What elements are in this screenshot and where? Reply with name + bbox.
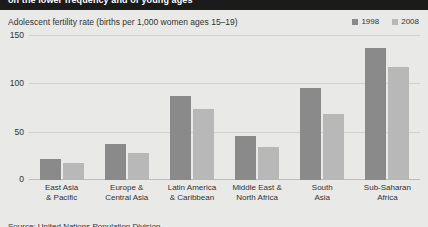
y-tick-label: 100: [10, 78, 24, 88]
source-note: Source: United Nations Population Divisi…: [8, 222, 163, 227]
bar-group: [225, 35, 290, 180]
bar-2008: [63, 163, 84, 180]
plot-area: 150 100 50 0: [29, 35, 420, 180]
bar-2008: [323, 114, 344, 180]
top-banner: on the lower frequency and of young ages: [0, 0, 428, 10]
bar-2008: [388, 67, 409, 180]
category-label: Middle East &North Africa: [225, 183, 290, 203]
category-label: Sub-SaharanAfrica: [355, 183, 420, 203]
category-label-line: & Caribbean: [159, 193, 224, 203]
bar-1998: [365, 48, 386, 180]
legend-swatch-icon: [352, 19, 358, 25]
category-label: SouthAsia: [290, 183, 355, 203]
category-label-line: Asia: [290, 193, 355, 203]
category-label-line: South: [290, 183, 355, 193]
bar-group: [159, 35, 224, 180]
chart-card: Adolescent fertility rate (births per 1,…: [0, 10, 428, 207]
bar-1998: [170, 96, 191, 180]
category-label-line: Africa: [355, 193, 420, 203]
y-tick-label: 0: [19, 174, 24, 184]
category-label: East Asia& Pacific: [29, 183, 94, 203]
bar-2008: [128, 153, 149, 180]
bar-group: [355, 35, 420, 180]
bar-1998: [300, 88, 321, 180]
category-label-line: North Africa: [225, 193, 290, 203]
legend-swatch-icon: [392, 19, 398, 25]
category-label-line: & Pacific: [29, 193, 94, 203]
bar-2008: [193, 109, 214, 180]
bar-2008: [258, 147, 279, 180]
category-label-line: East Asia: [29, 183, 94, 193]
category-label-line: Middle East &: [225, 183, 290, 193]
legend-label-1998: 1998: [361, 17, 379, 26]
bar-group: [94, 35, 159, 180]
chart-legend: 1998 2008: [352, 17, 419, 26]
category-label: Latin America& Caribbean: [159, 183, 224, 203]
category-label-line: Central Asia: [94, 193, 159, 203]
bar-1998: [235, 136, 256, 180]
y-tick-label: 150: [10, 30, 24, 40]
category-labels: East Asia& PacificEurope &Central AsiaLa…: [29, 183, 420, 203]
bar-group: [29, 35, 94, 180]
bar-1998: [40, 159, 61, 180]
category-label-line: Latin America: [159, 183, 224, 193]
chart-screenshot: on the lower frequency and of young ages…: [0, 0, 428, 227]
legend-label-2008: 2008: [401, 17, 419, 26]
bar-1998: [105, 144, 126, 180]
category-label-line: Sub-Saharan: [355, 183, 420, 193]
bar-groups: [29, 35, 420, 180]
chart-subtitle: Adolescent fertility rate (births per 1,…: [8, 17, 238, 27]
legend-item-1998: 1998: [352, 17, 379, 26]
bar-group: [290, 35, 355, 180]
legend-item-2008: 2008: [392, 17, 419, 26]
category-label-line: Europe &: [94, 183, 159, 193]
banner-headline: on the lower frequency and of young ages: [8, 0, 193, 5]
category-label: Europe &Central Asia: [94, 183, 159, 203]
y-tick-label: 50: [15, 127, 24, 137]
